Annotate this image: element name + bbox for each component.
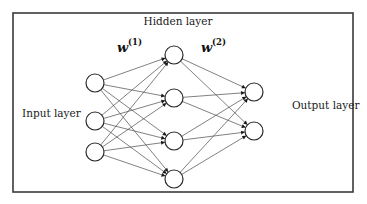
input-node-1 [86, 74, 104, 92]
input-node-3 [86, 143, 104, 161]
neural-network-diagram: Hidden layer w (1) w (2) Input layer Out… [0, 0, 367, 204]
arrowhead-icon [162, 103, 166, 107]
arrowhead-icon [161, 173, 165, 177]
w1-superscript: (1) [128, 37, 142, 47]
weight-label-w2: w (2) [201, 37, 226, 55]
edge-ih-1-3 [102, 126, 166, 173]
edge-ho-3-1 [182, 136, 247, 175]
w2-superscript: (2) [212, 37, 226, 47]
edge-ho-2-0 [182, 97, 247, 137]
hidden-node-1 [165, 46, 183, 64]
arrowheads [161, 57, 248, 176]
hidden-node-2 [165, 89, 183, 107]
edge-ih-1-2 [104, 123, 166, 139]
edge-ih-0-2 [102, 88, 166, 135]
edge-ho-3-0 [180, 99, 248, 173]
arrowhead-icon [241, 91, 245, 95]
edge-ho-0-0 [182, 59, 246, 88]
edge-ih-2-2 [104, 142, 165, 151]
hidden-node-4 [165, 170, 183, 188]
hidden-layer-label: Hidden layer [143, 15, 213, 27]
input-node-2 [86, 112, 104, 130]
output-node-1 [245, 83, 263, 101]
edge-ih-0-1 [104, 85, 165, 97]
arrowhead-icon [162, 132, 166, 136]
weight-label-w1: w (1) [117, 37, 142, 55]
input-layer-label: Input layer [22, 107, 82, 119]
edge-ih-2-0 [101, 62, 169, 145]
neuron-nodes [86, 46, 263, 188]
hidden-node-3 [165, 132, 183, 150]
output-layer-label: Output layer [292, 99, 360, 111]
connection-edges [101, 58, 248, 176]
output-node-2 [245, 122, 263, 140]
